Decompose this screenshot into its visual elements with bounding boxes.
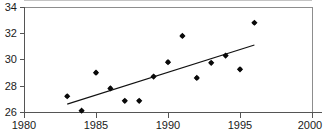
data-point-core bbox=[180, 34, 184, 38]
x-tick-label-1985: 1985 bbox=[84, 119, 108, 131]
data-point-core bbox=[65, 94, 69, 98]
data-point-core bbox=[108, 86, 112, 90]
y-tick-label-32: 32 bbox=[5, 27, 17, 39]
x-tick-label-1980: 1980 bbox=[12, 119, 36, 131]
data-point-core bbox=[80, 109, 84, 113]
data-point-core bbox=[209, 61, 213, 65]
x-axis: 1980 1985 1990 1995 2000 bbox=[12, 113, 322, 132]
data-point-core bbox=[252, 21, 256, 25]
data-point-core bbox=[152, 75, 156, 79]
chart-figure: 34 32 30 28 26 1980 1985 1990 1995 2000 bbox=[0, 0, 329, 134]
scatter-plot: 34 32 30 28 26 1980 1985 1990 1995 2000 bbox=[0, 0, 329, 134]
y-axis: 34 32 30 28 26 bbox=[5, 1, 25, 118]
data-point-core bbox=[195, 76, 199, 80]
y-tick-label-34: 34 bbox=[5, 1, 17, 13]
data-point-series bbox=[64, 20, 257, 114]
x-tick-label-1990: 1990 bbox=[156, 119, 180, 131]
x-tick-label-1995: 1995 bbox=[228, 119, 252, 131]
data-point-core bbox=[123, 99, 127, 103]
x-tick-label-2000: 2000 bbox=[298, 119, 322, 131]
data-point-core bbox=[224, 54, 228, 58]
data-point-core bbox=[137, 99, 141, 103]
data-point-core bbox=[238, 67, 242, 71]
y-tick-label-26: 26 bbox=[5, 106, 17, 118]
data-point-core bbox=[94, 71, 98, 75]
y-tick-label-28: 28 bbox=[5, 80, 17, 92]
data-point-core bbox=[166, 60, 170, 64]
y-tick-label-30: 30 bbox=[5, 53, 17, 65]
